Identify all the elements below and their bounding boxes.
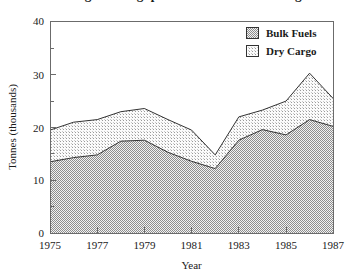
y-tick-label-20: 20	[33, 122, 45, 134]
x-tick-label-1985: 1985	[275, 239, 298, 251]
y-tick-label-40: 40	[33, 15, 45, 27]
x-tick-label-1975: 1975	[39, 239, 62, 251]
area-chart-plot: 40 30 20 10 0 1975 1977 1979 1981 1983 1…	[0, 0, 357, 278]
x-axis-title: Year	[181, 259, 202, 271]
legend-label-bulk-fuels: Bulk Fuels	[266, 27, 317, 39]
x-tick-label-1979: 1979	[133, 239, 156, 251]
legend-swatch-bulk-fuels	[246, 27, 258, 38]
legend-swatch-dry-cargo	[246, 45, 258, 56]
legend-label-dry-cargo: Dry Cargo	[266, 45, 317, 57]
y-tick-label-0: 0	[39, 227, 45, 239]
y-axis-tick-labels: 40 30 20 10 0	[33, 15, 45, 239]
y-tick-label-10: 10	[33, 174, 45, 186]
x-tick-label-1981: 1981	[181, 239, 203, 251]
chart-figure: Tonnage Throughput of the Port of Tauran…	[0, 0, 357, 278]
chart-legend: Bulk Fuels Dry Cargo	[246, 27, 317, 57]
x-tick-label-1987: 1987	[322, 239, 345, 251]
y-tick-label-30: 30	[33, 69, 45, 81]
chart-series-group	[50, 73, 333, 233]
x-axis-tick-labels: 1975 1977 1979 1981 1983 1985 1987	[39, 239, 345, 251]
x-tick-label-1983: 1983	[228, 239, 251, 251]
y-axis-title: Tonnes (thousands)	[6, 84, 19, 170]
x-tick-label-1977: 1977	[86, 239, 109, 251]
